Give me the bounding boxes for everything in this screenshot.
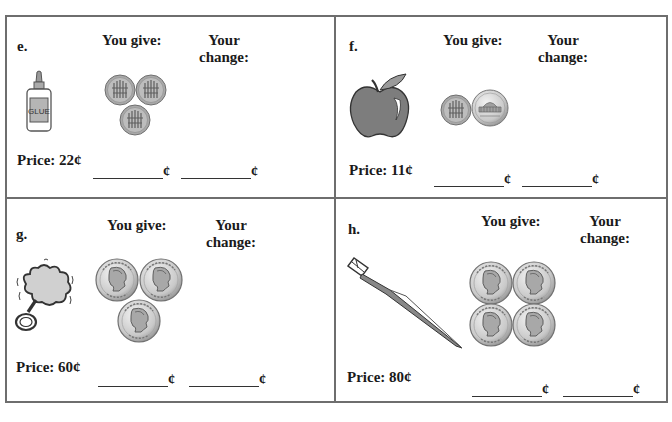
your-change-answer-field[interactable]: ¢ (181, 166, 259, 180)
you-give-answer-field[interactable]: ¢ (93, 166, 171, 180)
quarter-icon (96, 259, 138, 301)
coins-given-h (470, 262, 560, 352)
quarter-icon (470, 304, 512, 346)
problem-letter: g. (16, 226, 27, 243)
quarter-icon (140, 259, 182, 301)
price-label: Price: 60¢ (16, 359, 81, 376)
your-change-label: Your change: (535, 32, 591, 66)
your-change-line1: Your (196, 32, 252, 49)
price-label: Price: 22¢ (17, 152, 82, 169)
you-give-answer-field[interactable]: ¢ (434, 174, 512, 188)
your-change-line2: change: (535, 49, 591, 66)
column-divider (334, 15, 336, 403)
dime-icon (136, 75, 166, 105)
dime-icon (441, 95, 471, 125)
you-give-label: You give: (481, 213, 541, 230)
your-change-answer-field[interactable]: ¢ (563, 384, 641, 398)
svg-text:GLUE: GLUE (28, 107, 50, 116)
dime-icon (105, 75, 135, 105)
your-change-label: Your change: (203, 217, 259, 251)
bubble-wand-icon (14, 260, 76, 336)
dime-icon (120, 105, 150, 135)
your-change-line2: change: (577, 230, 633, 247)
your-change-label: Your change: (577, 213, 633, 247)
apple-icon (348, 72, 412, 140)
you-give-answer-field[interactable]: ¢ (472, 384, 550, 398)
quarter-icon (470, 262, 512, 304)
problem-letter: e. (17, 38, 27, 55)
you-give-answer-field[interactable]: ¢ (98, 374, 176, 388)
you-give-label: You give: (107, 217, 167, 234)
row-divider (5, 197, 668, 199)
price-label: Price: 80¢ (347, 369, 412, 386)
your-change-line1: Your (203, 217, 259, 234)
coins-given-e (120, 90, 180, 150)
problem-letter: f. (349, 38, 358, 55)
glue-bottle-icon: GLUE (24, 70, 54, 134)
your-change-line1: Your (535, 32, 591, 49)
your-change-line2: change: (203, 234, 259, 251)
quarter-icon (118, 300, 160, 342)
nickel-icon (472, 90, 508, 126)
quarter-icon (513, 262, 555, 304)
price-label: Price: 11¢ (349, 162, 413, 179)
coins-given-f (441, 95, 521, 135)
coins-given-g (96, 259, 196, 349)
your-change-answer-field[interactable]: ¢ (189, 374, 267, 388)
problem-letter: h. (348, 221, 360, 238)
your-change-line1: Your (577, 213, 633, 230)
you-give-label: You give: (443, 32, 503, 49)
your-change-answer-field[interactable]: ¢ (522, 174, 600, 188)
your-change-line2: change: (196, 49, 252, 66)
toothbrush-icon (346, 256, 464, 352)
quarter-icon (513, 304, 555, 346)
you-give-label: You give: (102, 32, 162, 49)
your-change-label: Your change: (196, 32, 252, 66)
